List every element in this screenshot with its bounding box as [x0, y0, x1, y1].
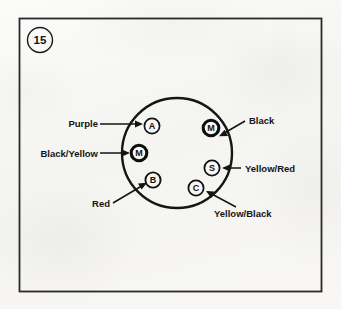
label-black-yellow: Black/Yellow	[40, 148, 98, 159]
leader-red	[113, 183, 147, 203]
terminal-M-right: M	[203, 120, 219, 136]
terminal-B-letter: B	[150, 175, 157, 185]
terminal-M-left-letter: M	[135, 148, 143, 158]
leader-purple	[100, 121, 143, 128]
arrowhead-yellow-red	[222, 165, 230, 172]
label-yellow-black: Yellow/Black	[214, 208, 272, 219]
leader-black-yellow	[100, 150, 130, 157]
terminal-C: C	[188, 180, 203, 195]
terminal-M-right-letter: M	[207, 123, 215, 133]
leader-yellow-black	[206, 191, 236, 207]
label-red: Red	[92, 198, 110, 209]
leader-lines	[100, 121, 245, 207]
ignition-switch-diagram: 15	[0, 0, 341, 309]
arrowhead-black-yellow	[122, 150, 130, 157]
terminal-B: B	[145, 172, 160, 187]
arrowhead-purple	[135, 121, 143, 128]
figure-number-text: 15	[34, 34, 47, 46]
label-purple: Purple	[68, 118, 98, 129]
terminal-C-letter: C	[193, 183, 200, 193]
terminal-S-letter: S	[209, 163, 215, 173]
terminal-A: A	[144, 118, 159, 133]
label-yellow-red: Yellow/Red	[245, 163, 295, 174]
figure-number-badge: 15	[28, 28, 53, 53]
wire-labels: Purple Black/Yellow Red Black Yellow/Red…	[40, 115, 295, 219]
diagram-page: 15	[0, 0, 341, 309]
terminal-S: S	[204, 160, 219, 175]
terminal-M-left: M	[131, 145, 147, 161]
label-black: Black	[249, 115, 275, 126]
terminal-A-letter: A	[149, 121, 156, 131]
